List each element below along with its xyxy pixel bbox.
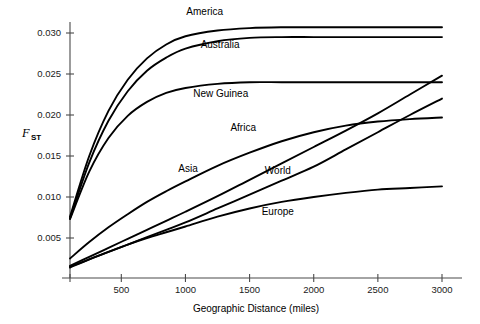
series-lines-group <box>70 27 442 267</box>
series-label-europe: Europe <box>262 206 295 217</box>
series-label-america: America <box>186 6 223 17</box>
series-label-africa: Africa <box>230 122 256 133</box>
y-tick-label: 0.010 <box>37 191 61 202</box>
x-axis-title: Geographic Distance (miles) <box>193 303 319 314</box>
chart-canvas: 0.0050.0100.0150.0200.0250.030 500100015… <box>0 0 480 324</box>
y-axis-title-main: F <box>21 126 30 140</box>
x-tick-label: 2000 <box>303 284 324 295</box>
series-line-asia <box>70 76 442 266</box>
series-label-australia: Australia <box>201 39 240 50</box>
series-label-asia: Asia <box>178 163 198 174</box>
series-line-europe <box>70 186 442 267</box>
series-label-world: World <box>265 165 291 176</box>
x-tick-label: 1500 <box>239 284 260 295</box>
series-line-world <box>70 99 442 267</box>
series-line-africa <box>70 117 442 258</box>
x-tick-label: 3000 <box>431 284 452 295</box>
axes-group <box>62 22 462 278</box>
chart-figure: 0.0050.0100.0150.0200.0250.030 500100015… <box>0 0 480 324</box>
y-tick-label: 0.015 <box>37 150 61 161</box>
y-tick-label: 0.025 <box>37 68 61 79</box>
tick-marks-group <box>66 33 442 282</box>
x-tick-label: 2500 <box>367 284 388 295</box>
y-tick-label: 0.030 <box>37 27 61 38</box>
y-axis-title-subscript: ST <box>31 133 41 142</box>
x-tick-label: 1000 <box>175 284 196 295</box>
series-label-new-guinea: New Guinea <box>193 88 248 99</box>
y-tick-label: 0.020 <box>37 109 61 120</box>
y-tick-label: 0.005 <box>37 232 61 243</box>
x-tick-label: 500 <box>113 284 129 295</box>
x-tick-labels: 50010001500200025003000 <box>113 284 452 295</box>
